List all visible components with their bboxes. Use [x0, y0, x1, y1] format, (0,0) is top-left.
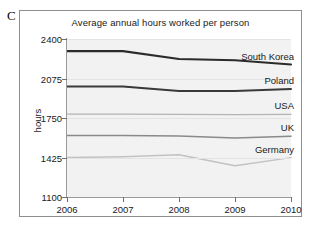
x-tick-label: 2007	[112, 204, 133, 215]
x-tick-label: 2009	[224, 204, 245, 215]
gridline	[67, 158, 291, 159]
series-line-germany	[67, 155, 291, 166]
y-tick-label: 2400	[22, 34, 62, 45]
series-label-usa: USA	[274, 100, 294, 111]
series-label-poland: Poland	[264, 75, 294, 86]
series-label-germany: Germany	[255, 144, 294, 155]
x-tick-mark	[291, 197, 292, 202]
figure-letter: C	[7, 9, 16, 22]
x-tick-mark	[123, 197, 124, 202]
figure-container: C Average annual hours worked per person…	[0, 0, 312, 229]
series-line-poland	[67, 86, 291, 91]
y-tick-mark	[62, 39, 67, 40]
x-tick-label: 2008	[168, 204, 189, 215]
y-tick-label: 1100	[22, 192, 62, 203]
series-label-south-korea: South Korea	[241, 51, 294, 62]
chart-title: Average annual hours worked per person	[20, 17, 301, 28]
y-tick-label: 1425	[22, 152, 62, 163]
series-label-uk: UK	[281, 122, 294, 133]
plot-area	[67, 39, 291, 197]
gridline	[67, 79, 291, 80]
series-line-uk	[67, 136, 291, 138]
chart-frame: Average annual hours worked per person h…	[19, 10, 302, 217]
x-tick-mark	[235, 197, 236, 202]
x-tick-label: 2006	[56, 204, 77, 215]
y-tick-mark	[62, 158, 67, 159]
gridline	[67, 118, 291, 119]
y-tick-label: 1750	[22, 113, 62, 124]
y-tick-mark	[62, 79, 67, 80]
x-tick-mark	[67, 197, 68, 202]
x-tick-label: 2010	[280, 204, 301, 215]
y-tick-label: 2075	[22, 73, 62, 84]
y-tick-mark	[62, 118, 67, 119]
gridline	[67, 39, 291, 40]
x-tick-mark	[179, 197, 180, 202]
